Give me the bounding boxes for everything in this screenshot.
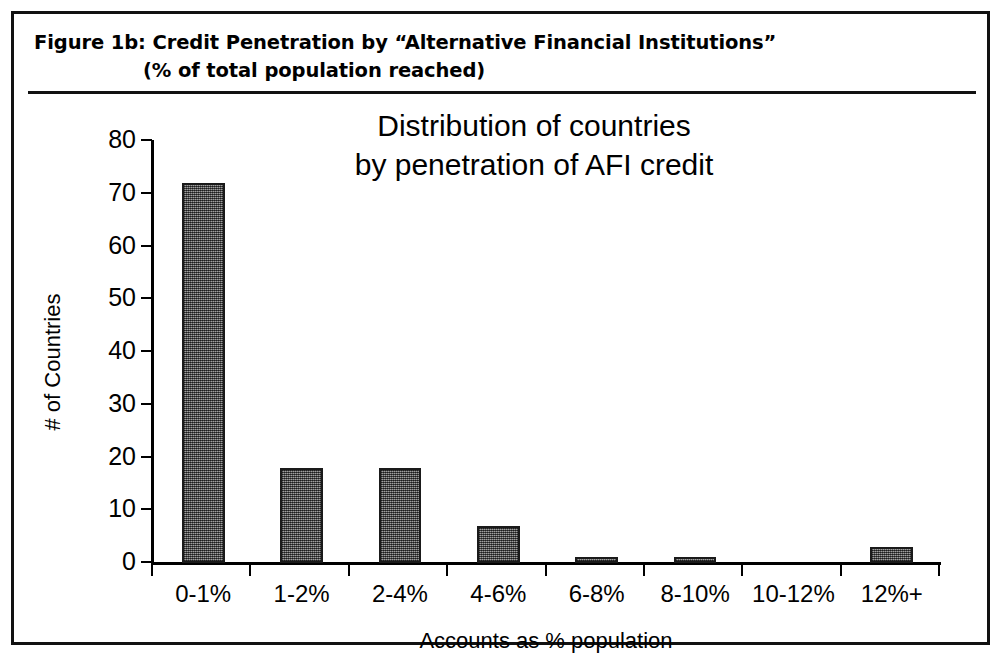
y-axis-tick: [141, 350, 152, 352]
y-axis-tick-label: 80: [78, 127, 136, 152]
bar: [280, 468, 323, 563]
y-axis-tick-label: 30: [78, 391, 136, 416]
bar: [477, 526, 520, 563]
y-axis-tick: [141, 192, 152, 194]
bar-series: [154, 140, 941, 563]
bar: [379, 468, 422, 563]
x-axis-tick: [840, 564, 842, 576]
y-axis-tick: [141, 139, 152, 141]
y-axis-tick: [141, 245, 152, 247]
y-axis-tick: [141, 561, 152, 563]
y-axis-tick: [141, 508, 152, 510]
y-axis-tick-label: 0: [78, 549, 136, 574]
bar: [575, 557, 618, 563]
figure-frame: Figure 1b: Credit Penetration by “Altern…: [11, 11, 990, 645]
bar: [182, 183, 225, 563]
y-axis-title: # of Countries: [40, 282, 66, 442]
x-axis-tick: [249, 564, 251, 576]
chart-plot: Distribution of countries by penetration…: [14, 94, 987, 646]
x-axis-tick: [446, 564, 448, 576]
x-axis-tick: [151, 564, 153, 576]
x-axis-tick: [545, 564, 547, 576]
y-axis-tick-label: 70: [78, 180, 136, 205]
y-axis-tick-label: 50: [78, 285, 136, 310]
y-axis-tick-label: 60: [78, 233, 136, 258]
y-axis-tick: [141, 297, 152, 299]
x-axis-tick: [348, 564, 350, 576]
figure-caption: Figure 1b: Credit Penetration by “Altern…: [14, 14, 987, 92]
figure-caption-line-1: Figure 1b: Credit Penetration by “Altern…: [34, 31, 776, 54]
x-axis-title: Accounts as % population: [151, 628, 941, 654]
x-axis-tick: [938, 564, 940, 576]
figure-caption-line-2: (% of total population reached): [143, 59, 485, 82]
bar: [674, 557, 717, 563]
y-axis-tick-label: 10: [78, 496, 136, 521]
y-axis-tick-label: 40: [78, 338, 136, 363]
y-axis-tick: [141, 403, 152, 405]
x-axis-tick-label: 12%+: [823, 580, 961, 608]
x-axis-tick: [643, 564, 645, 576]
bar: [870, 547, 913, 563]
y-axis-tick-label: 20: [78, 444, 136, 469]
x-axis-tick: [741, 564, 743, 576]
y-axis-tick: [141, 456, 152, 458]
